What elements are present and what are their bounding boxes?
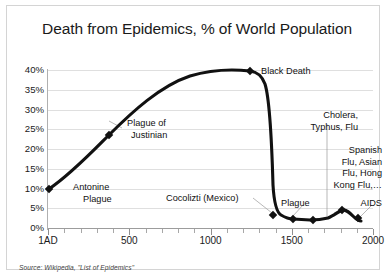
annotation-cholera-typhus-flu: Cholera, Typhus, Flu (296, 110, 358, 133)
annotation-antonine-plague: Antonine Plague (73, 182, 112, 205)
data-series-curve (0, 0, 388, 280)
annotation-modern-line4: Kong Flu,… (318, 180, 382, 192)
marker-cholera (309, 216, 317, 224)
annotation-cholera-line2: Typhus, Flu (296, 122, 358, 134)
annotation-plague-of-justinian: Plague of Justinian (127, 118, 167, 141)
annotation-antonine-line2: Plague (73, 194, 112, 206)
annotation-cholera-line1: Cholera, (296, 110, 358, 122)
leader-cocolizti (253, 198, 272, 213)
marker-black-death (246, 67, 254, 75)
annotation-cocolizti: Cocolizti (Mexico) (166, 193, 239, 205)
annotation-aids: AIDS (318, 198, 382, 210)
annotation-black-death: Black Death (261, 66, 311, 78)
annotation-antonine-line1: Antonine (73, 182, 112, 194)
annotation-modern-line1: Spanish (318, 145, 382, 157)
annotation-modern-line3: Flu, Hong (318, 168, 382, 180)
annotation-modern-line2: Flu, Asian (318, 157, 382, 169)
annotation-plague: Plague (281, 198, 310, 210)
marker-plague (289, 215, 297, 223)
annotation-justinian-line1: Plague of (127, 118, 167, 130)
marker-cocolizti (269, 211, 277, 219)
annotation-modern-pandemics: Spanish Flu, Asian Flu, Hong Kong Flu,… (318, 145, 382, 191)
annotation-justinian-line2: Justinian (127, 130, 167, 142)
